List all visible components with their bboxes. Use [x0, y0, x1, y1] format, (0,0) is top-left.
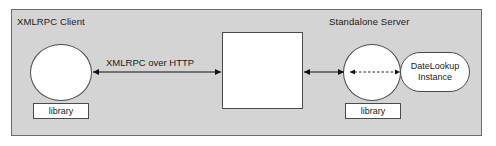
connector-layer: center box : "XMLRPC over HTTP" --> serv…	[0, 0, 496, 146]
diagram-root: XMLRPC Client Standalone Server library …	[0, 0, 496, 146]
